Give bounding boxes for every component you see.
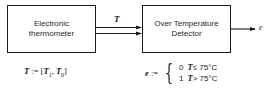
eq-e-case-1: 1 T> 75°C [179,73,217,84]
eq-T-lhs: T [24,66,29,76]
equation-e-definition: e := { 0 T≤ 75°C 1 T> 75°C [145,62,218,84]
case-value: 0 [179,62,183,73]
eq-e-lhs: e [145,68,149,78]
eq-T-sep: , [52,66,54,76]
case-cond: > 75°C [193,74,218,83]
signal-label-e: e [259,23,263,32]
eq-T-assign: := [31,66,38,76]
eq-e-assign: := [151,68,158,78]
eq-e-cases: 0 T≤ 75°C 1 T> 75°C [179,62,217,84]
connection-arrows [0,0,269,94]
signal-label-T: T [114,14,120,24]
eq-e-lhs-group: e := [145,68,158,78]
eq-T-close-bracket: ] [64,66,67,76]
case-value: 1 [179,73,183,84]
double-arrow-T [96,28,141,34]
eq-e-case-0: 0 T≤ 75°C [179,62,217,73]
case-cond: ≤ 75°C [193,63,218,72]
eq-e-brace: { [165,62,173,84]
equation-T-definition: T := [T1, T0] [24,66,67,78]
